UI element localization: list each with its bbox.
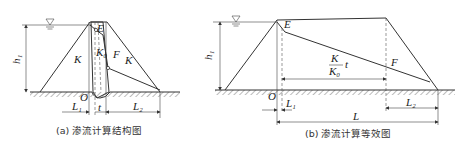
svg-text:K₀: K₀ bbox=[328, 65, 340, 77]
figure-b: h₁ K K₀ t E F O L₁ L₂ L (b) 渗流计算等效图 bbox=[202, 16, 455, 139]
svg-text:t: t bbox=[345, 58, 349, 70]
caption-b: (b) 渗流计算等效图 bbox=[305, 128, 391, 139]
water-level-symbol-b bbox=[232, 16, 240, 26]
K0-label-a: K₀ bbox=[95, 46, 107, 58]
Kt-fraction-label-b: K K₀ t bbox=[328, 52, 349, 77]
L1-label-b: L₁ bbox=[285, 97, 296, 109]
caption-a: (a) 渗流计算结构图 bbox=[56, 125, 142, 136]
L1-label-a: L₁ bbox=[71, 100, 82, 112]
phreatic-line-b bbox=[277, 22, 430, 82]
K-left-label-a: K bbox=[73, 53, 82, 65]
t-label-a: t bbox=[98, 101, 102, 113]
E-label-a: E bbox=[96, 22, 104, 34]
K-right-label-a: K bbox=[124, 54, 133, 66]
seepage-diagram: h₁ K E K₀ F K O L₁ t L₂ (a) 渗流计算结构图 bbox=[0, 0, 463, 149]
L2-label-a: L₂ bbox=[132, 100, 143, 112]
E-label-b: E bbox=[283, 18, 291, 30]
figure-a: h₁ K E K₀ F K O L₁ t L₂ (a) 渗流计算结构图 bbox=[10, 19, 180, 136]
L2-label-b: L₂ bbox=[405, 96, 416, 108]
F-label-b: F bbox=[390, 56, 398, 68]
F-label-a: F bbox=[112, 48, 120, 60]
svg-text:K: K bbox=[330, 52, 339, 64]
ground-hatch-b bbox=[215, 90, 455, 95]
h1-label-a: h₁ bbox=[10, 55, 22, 65]
h1-label-b: h₁ bbox=[202, 51, 214, 61]
O-label-b: O bbox=[268, 90, 276, 102]
water-level-symbol-a bbox=[46, 19, 54, 29]
L-label-b: L bbox=[352, 110, 359, 122]
point-F-marker-a bbox=[106, 66, 109, 69]
